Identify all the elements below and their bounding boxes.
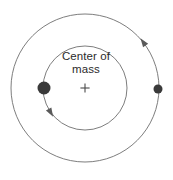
inner-orbit-direction-arrow-icon [46, 107, 53, 116]
small-body-dot [154, 85, 163, 94]
large-body-dot [38, 82, 51, 95]
orbit-svg-canvas [0, 0, 173, 180]
outer-orbit-direction-arrow-icon [140, 38, 148, 47]
center-of-mass-label: Center of mass [48, 50, 124, 76]
center-of-mass-label-line-2: mass [48, 63, 124, 76]
center-of-mass-label-line-1: Center of [48, 50, 124, 63]
center-of-mass-marker [80, 83, 89, 92]
two-body-orbit-diagram: Center of mass [0, 0, 173, 180]
